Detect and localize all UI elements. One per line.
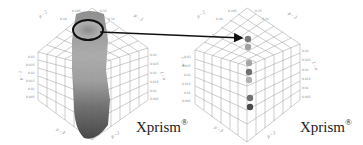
svg-text:μ - 1: μ - 1 bbox=[18, 71, 23, 80]
right-label-text: Xprism bbox=[300, 119, 345, 135]
svg-text:μ - 2: μ - 2 bbox=[110, 130, 121, 139]
data-point bbox=[246, 69, 252, 75]
svg-text:0.35: 0.35 bbox=[100, 9, 107, 13]
registered-mark: ® bbox=[181, 117, 188, 127]
left-panel-label: Xprism® bbox=[136, 117, 188, 136]
svg-text:0.48: 0.48 bbox=[60, 17, 67, 21]
svg-text:μ - 3: μ - 3 bbox=[133, 13, 144, 23]
right-grid bbox=[195, 8, 300, 142]
svg-text:0.02: 0.02 bbox=[302, 68, 309, 72]
svg-text:μ - 1: μ - 1 bbox=[180, 57, 185, 66]
svg-text:0.48: 0.48 bbox=[216, 17, 223, 21]
svg-text:μ - 3: μ - 3 bbox=[287, 11, 298, 21]
data-point bbox=[247, 95, 253, 101]
svg-text:μ - 2: μ - 2 bbox=[38, 9, 49, 19]
svg-text:0.03: 0.03 bbox=[184, 55, 191, 59]
svg-text:0.02: 0.02 bbox=[150, 71, 157, 75]
svg-text:0.025: 0.025 bbox=[150, 62, 159, 66]
svg-text:0.005: 0.005 bbox=[302, 95, 311, 99]
svg-text:0.03: 0.03 bbox=[150, 53, 157, 57]
svg-text:0.005: 0.005 bbox=[182, 99, 191, 103]
svg-text:0.01: 0.01 bbox=[184, 91, 191, 95]
data-point bbox=[246, 60, 252, 66]
svg-text:0.015: 0.015 bbox=[182, 82, 191, 86]
svg-text:0.01: 0.01 bbox=[28, 87, 35, 91]
right-panel-label: Xprism® bbox=[300, 117, 352, 136]
data-point bbox=[246, 77, 252, 83]
svg-text:0.01: 0.01 bbox=[302, 86, 309, 90]
svg-text:0.015: 0.015 bbox=[26, 79, 35, 83]
data-point bbox=[245, 36, 251, 42]
svg-text:0.005: 0.005 bbox=[26, 95, 35, 99]
registered-mark: ® bbox=[345, 117, 352, 127]
svg-text:0.34: 0.34 bbox=[108, 17, 115, 21]
right-points bbox=[245, 36, 253, 110]
svg-text:0.015: 0.015 bbox=[150, 80, 159, 84]
svg-text:0.02: 0.02 bbox=[28, 71, 35, 75]
svg-text:0.03: 0.03 bbox=[28, 55, 35, 59]
data-point bbox=[247, 104, 253, 110]
svg-text:0.01: 0.01 bbox=[150, 89, 157, 93]
svg-text:μ - 3: μ - 3 bbox=[214, 125, 225, 134]
svg-text:0.005: 0.005 bbox=[150, 97, 159, 101]
left-point-cloud bbox=[72, 11, 110, 139]
svg-text:0.495: 0.495 bbox=[72, 9, 81, 13]
svg-text:0.03: 0.03 bbox=[302, 49, 309, 53]
svg-text:0.02: 0.02 bbox=[184, 73, 191, 77]
svg-text:1 - n: 1 - n bbox=[311, 61, 319, 72]
svg-text:0.025: 0.025 bbox=[26, 63, 35, 67]
svg-text:μ - 3: μ - 3 bbox=[56, 127, 67, 136]
svg-text:1 - n: 1 - n bbox=[159, 71, 167, 82]
svg-text:μ - 2: μ - 2 bbox=[196, 9, 207, 19]
right-prism-plot: 0.495 0.35 0.48 0.34 0.03 0.025 0.02 0.0… bbox=[180, 8, 319, 142]
left-label-text: Xprism bbox=[136, 119, 181, 135]
data-point bbox=[245, 44, 251, 50]
svg-text:0.34: 0.34 bbox=[262, 17, 269, 21]
svg-text:μ - 2: μ - 2 bbox=[266, 130, 277, 139]
svg-text:0.35: 0.35 bbox=[255, 9, 262, 13]
svg-text:0.025: 0.025 bbox=[302, 58, 311, 62]
svg-text:0.015: 0.015 bbox=[302, 77, 311, 81]
svg-text:0.495: 0.495 bbox=[228, 9, 237, 13]
